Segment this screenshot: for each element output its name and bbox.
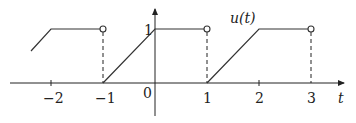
tick-label-2: 2 [255, 90, 264, 106]
function-label: u(t) [230, 10, 256, 26]
signal-plot: −2 −1 0 1 2 3 1 t u(t) [0, 0, 356, 123]
dashed-guides [103, 32, 311, 83]
tick-label-0: 0 [143, 85, 152, 101]
tick-label-1: 1 [203, 90, 212, 106]
tick-label-neg1: −1 [95, 90, 116, 106]
y-tick-label-1: 1 [144, 22, 153, 38]
x-axis-label-t: t [338, 90, 344, 106]
tick-label-3: 3 [307, 90, 316, 106]
tick-label-neg2: −2 [43, 90, 64, 106]
signal-u-t [31, 29, 308, 83]
